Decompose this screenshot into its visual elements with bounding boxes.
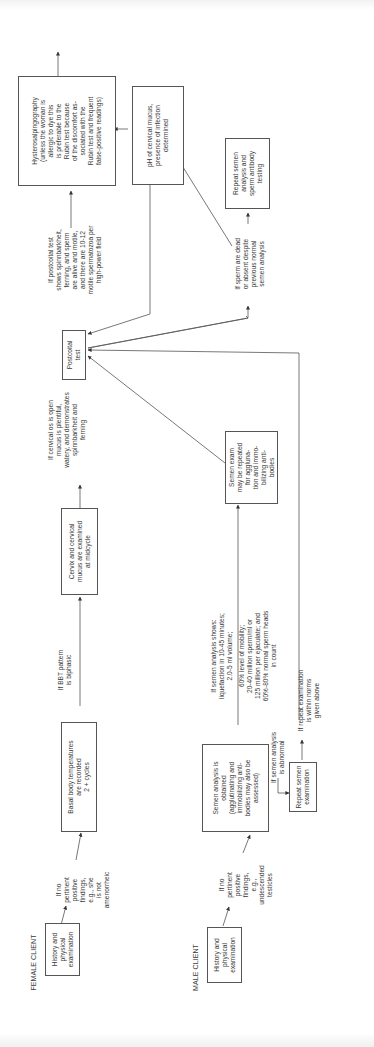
- box-line: (agglutinating and: [228, 762, 236, 814]
- text-line: findings,: [242, 873, 250, 898]
- text-line: If sperm are dead: [234, 238, 242, 290]
- text-line: If cervical os is open: [47, 400, 55, 460]
- box-line: assessed): [252, 773, 260, 803]
- male-history-box: History and physical examination: [207, 927, 242, 983]
- box-line: false-positive readings): [95, 97, 103, 165]
- box-line: (unless the woman is: [39, 100, 47, 162]
- box-line: Semen exam: [228, 448, 236, 487]
- text-line: and there are 10-12: [79, 231, 87, 289]
- box-line: analysis and: [240, 155, 248, 192]
- text-line: liquefaction in 10-45 minutes;: [218, 613, 226, 699]
- female-condition-no-findings: If no pertinent positive findings, e.g.,…: [55, 860, 111, 920]
- text-line: is not: [95, 882, 103, 898]
- box-line: is preferable to the: [55, 104, 63, 159]
- box-line: History and: [213, 938, 221, 971]
- heading-text: MALE CLIENT: [192, 944, 200, 991]
- text-line: If semen analysis shows:: [210, 619, 218, 692]
- text-line: spinnbarkheit and: [71, 404, 79, 456]
- cervical-os-condition: If cervical os is open mucus is plentifu…: [47, 375, 87, 485]
- text-line: is within norms: [305, 679, 313, 723]
- box-line: bodies: [268, 458, 276, 477]
- semen-analysis-box: Semen analysis is obtained (agglutinatin…: [202, 744, 269, 832]
- female-client-heading: FEMALE CLIENT: [30, 925, 38, 1000]
- text-line: motile spermatozoa per: [87, 226, 95, 295]
- text-line: high-power field: [95, 237, 103, 284]
- semen-normal-values: If semen analysis shows: liquefaction in…: [210, 597, 278, 715]
- text-line: If semen analysis: [270, 732, 278, 783]
- repeat-within-norms-condition: If repeat examination is within norms gi…: [297, 663, 321, 738]
- text-line: If repeat examination: [297, 670, 305, 732]
- text-line: 125 million per ejaculate; and: [254, 613, 262, 699]
- box-line: are recorded: [75, 758, 83, 795]
- text-line: If postcoital test: [47, 237, 55, 283]
- female-history-box: History and physical examination: [45, 923, 80, 976]
- box-line: mucus are examined: [76, 521, 84, 582]
- semen-exam-repeat-box: Semen exam may be repeated for aggluna- …: [225, 431, 278, 504]
- box-line: bodies may also be: [244, 760, 252, 817]
- text-line: If no: [218, 879, 226, 892]
- text-line: in count: [270, 644, 278, 667]
- semen-abnormal-condition: If semen analysis is abnormal: [270, 725, 286, 790]
- box-line: tion and immo-: [252, 446, 260, 490]
- box-line: Rubin test because: [63, 103, 71, 159]
- box-line: immobilizing anti-: [236, 763, 244, 814]
- box-line: Hysterosalpingography: [31, 97, 39, 164]
- box-line: for aggluna-: [244, 450, 252, 485]
- male-client-heading: MALE CLIENT: [192, 935, 200, 1000]
- box-line: pH of cervical mucus,: [146, 104, 154, 167]
- text-line: are alive and motile,: [71, 231, 79, 290]
- male-condition-no-findings: If no pertinent positive findings, e.g.,…: [218, 855, 274, 915]
- text-line: given above: [313, 683, 321, 719]
- text-line: positive: [71, 879, 79, 901]
- ph-cervical-mucus-box: pH of cervical mucus, presence of infect…: [132, 86, 184, 185]
- bbt-biphasic-condition: If BBT pattern is biphasic: [57, 635, 73, 705]
- cervix-box: Cervix and cervical mucus are examined a…: [61, 508, 98, 595]
- text-line: shows spinnbarkheit,: [55, 229, 63, 291]
- text-line: previous normal: [250, 241, 258, 288]
- postcoital-condition: If postcoital test shows spinnbarkheit, …: [47, 205, 103, 315]
- box-line: determined: [162, 119, 170, 152]
- text-line: pertinent: [226, 872, 234, 898]
- box-line: allergic to dye this: [47, 105, 55, 158]
- box-line: obtained: [220, 775, 228, 800]
- box-line: Rubin test and frequent: [87, 97, 95, 166]
- box-line: Cervix and cervical: [68, 524, 76, 580]
- text-line: is abnormal: [278, 740, 286, 774]
- sperm-dead-condition: If sperm are dead or absent despite prev…: [234, 223, 266, 305]
- box-line: physical: [221, 943, 229, 967]
- box-line: Basal body temperatures: [67, 740, 75, 813]
- box-line: examination: [303, 769, 311, 805]
- text-line: or absent despite: [242, 239, 250, 290]
- heading-text: FEMALE CLIENT: [30, 934, 38, 990]
- box-line: sociated with the: [79, 106, 87, 155]
- text-line: 2.0-5 ml volume;: [226, 632, 234, 681]
- text-line: 20-40 million sperm/ml or: [246, 619, 254, 693]
- box-line: Repeat semen: [295, 766, 303, 809]
- box-line: test: [74, 350, 82, 361]
- hysterosalpingography-box: Hysterosalpingography (unless the woman …: [18, 76, 116, 186]
- box-line: Repeat semen: [232, 152, 240, 195]
- box-line: presence of infection: [154, 105, 162, 166]
- text-line: undescended: [258, 865, 266, 905]
- sperm-antibody-testing-box: Repeat semen analysis and sperm antibody…: [225, 138, 270, 209]
- postcoital-test-box: Postcoital test: [62, 330, 86, 380]
- box-line: at midcycle: [84, 535, 92, 568]
- bbt-box: Basal body temperatures are recorded 2 +…: [61, 722, 97, 832]
- text-line: mucus is plentiful,: [55, 404, 63, 456]
- box-line: sperm antibody: [248, 151, 256, 196]
- text-line: If no: [55, 884, 63, 897]
- box-line: Postcoital: [66, 341, 74, 370]
- box-line: testing: [256, 164, 264, 183]
- text-line: amenorrheic: [103, 872, 111, 909]
- text-line: semen analysis: [258, 241, 266, 286]
- text-line: positive: [234, 874, 242, 896]
- text-line: ferning, and sperm: [63, 233, 71, 288]
- text-line: 60% level of mobility;: [238, 625, 246, 687]
- box-line: 2 + cycles: [83, 762, 91, 792]
- text-line: ferning: [79, 420, 87, 440]
- box-line: History and: [51, 933, 59, 966]
- text-line: is biphasic: [65, 655, 73, 686]
- box-line: Semen analysis is: [212, 761, 220, 814]
- box-line: bilizing anti-: [260, 450, 268, 485]
- text-line: e.g.,: [250, 879, 258, 892]
